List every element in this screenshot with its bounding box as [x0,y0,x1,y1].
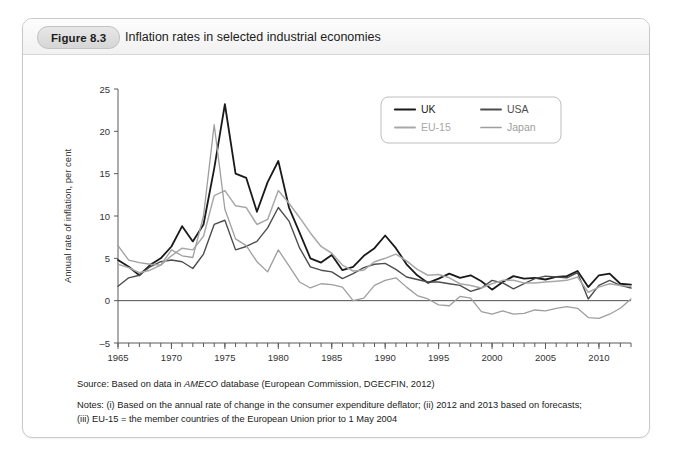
figure-number-badge: Figure 8.3 [37,26,120,49]
x-axis-tick-label: 1990 [375,352,396,363]
legend-label-usa: USA [507,103,529,115]
source-note: Source: Based on data in AMECO database … [77,377,633,392]
x-axis-tick-label: 1975 [214,352,235,363]
inflation-line-chart: –505101520251965197019751980198519901995… [23,55,651,395]
x-axis-tick-label: 1985 [321,352,342,363]
y-axis-tick-label: 10 [99,211,110,222]
x-axis-tick-label: 1970 [161,352,182,363]
legend-label-eu-15: EU-15 [421,121,451,133]
y-axis-tick-label: 25 [99,84,110,95]
y-axis-tick-label: 0 [105,295,110,306]
legend-box [381,97,561,143]
x-axis-tick-label: 1965 [107,352,128,363]
legend-label-uk: UK [421,103,436,115]
y-axis-tick-label: 5 [105,253,110,264]
figure-title: Inflation rates in selected industrial e… [125,19,381,55]
figure-card: Figure 8.3 Inflation rates in selected i… [22,18,650,438]
x-axis-tick-label: 2010 [588,352,609,363]
source-database-name: AMECO [184,379,218,389]
figure-header: Figure 8.3 Inflation rates in selected i… [23,19,649,55]
y-axis-tick-label: 15 [99,168,110,179]
source-suffix: database (European Commission, DGECFIN, … [218,379,435,389]
x-axis-tick-label: 1980 [268,352,289,363]
y-axis-title: Annual rate of inflation, per cent [62,149,73,284]
note-line-1: Notes: (i) Based on the annual rate of c… [77,398,633,413]
note-line-2: (iii) EU-15 = the member countries of th… [77,412,633,427]
x-axis-tick-label: 2000 [481,352,502,363]
y-axis-tick-label: –5 [99,338,110,349]
legend-label-japan: Japan [507,121,536,133]
x-axis-tick-label: 1995 [428,352,449,363]
figure-notes: Source: Based on data in AMECO database … [23,377,649,427]
y-axis-tick-label: 20 [99,126,110,137]
x-axis-tick-label: 2005 [535,352,556,363]
series-line-japan [118,125,631,319]
chart-area: –505101520251965197019751980198519901995… [23,55,649,395]
source-prefix: Source: Based on data in [77,379,184,389]
